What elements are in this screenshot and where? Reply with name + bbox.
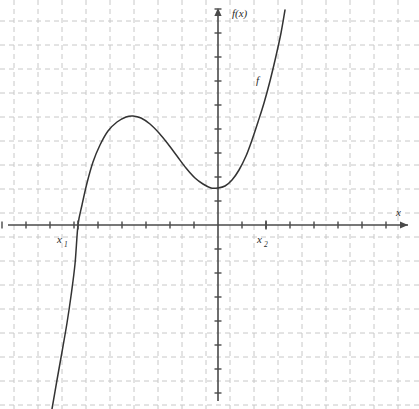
root-1-label-subscript: 1: [64, 240, 68, 249]
curve-path-f: [52, 10, 285, 409]
graph-canvas: f(x) x f x 1 x 2: [0, 0, 419, 409]
root-2-label-subscript: 2: [264, 240, 268, 249]
axes: [8, 8, 408, 401]
x-axis-arrowhead-icon: [400, 221, 408, 228]
y-axis-label: f(x): [232, 7, 248, 20]
x-axis-label: x: [395, 206, 401, 218]
function-curve: [52, 10, 285, 409]
axis-ticks: [2, 9, 386, 393]
cubic-function-graph: f(x) x f x 1 x 2: [0, 0, 419, 409]
root-2-label: x 2: [256, 233, 268, 249]
curve-label-f: f: [256, 74, 261, 86]
root-2-label-base: x: [256, 233, 262, 245]
root-1-label-base: x: [56, 233, 62, 245]
